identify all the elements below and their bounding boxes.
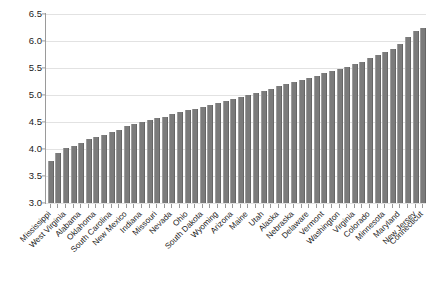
x-axis-tick-mark: [95, 204, 96, 208]
y-axis-tick-label: 5.5: [2, 63, 42, 73]
x-axis-tick-mark: [171, 204, 172, 208]
x-axis-tick-mark: [308, 204, 309, 208]
bar: [382, 52, 388, 203]
bar: [169, 114, 175, 203]
x-axis-tick-mark: [232, 204, 233, 208]
bar: [344, 67, 350, 203]
x-axis-tick-mark: [202, 204, 203, 208]
bar: [245, 95, 251, 203]
x-axis-tick-mark: [240, 204, 241, 208]
bar: [101, 135, 107, 203]
bar: [154, 118, 160, 203]
x-axis-tick-mark: [80, 204, 81, 208]
plot-area: [46, 14, 426, 203]
bar: [78, 143, 84, 203]
bar: [367, 58, 373, 203]
bar: [253, 93, 259, 203]
x-axis-tick-label: Utah: [118, 210, 265, 282]
x-axis-tick-mark: [278, 204, 279, 208]
bar: [321, 73, 327, 203]
bar: [124, 126, 130, 203]
x-axis-tick-mark: [57, 204, 58, 208]
bar: [223, 101, 229, 203]
bar: [177, 112, 183, 203]
x-axis-tick-mark: [50, 204, 51, 208]
x-axis-tick-label: Alaska: [133, 210, 280, 282]
x-axis-tick-label: Minnesota: [240, 210, 387, 282]
x-axis-tick-mark: [255, 204, 256, 208]
bar: [162, 117, 168, 203]
y-axis-tick-label: 4.5: [2, 117, 42, 127]
x-axis-tick-mark: [407, 204, 408, 208]
x-axis-tick-label: New Jersey: [270, 210, 417, 282]
bar: [420, 28, 426, 203]
x-axis-tick-label: Wyoming: [73, 210, 220, 282]
x-axis-tick-mark: [339, 204, 340, 208]
y-axis-tick-label: 4.0: [2, 144, 42, 154]
x-axis-tick-mark: [73, 204, 74, 208]
bar: [93, 137, 99, 203]
gridline: [46, 41, 426, 42]
x-axis-tick-label: Virginia: [209, 210, 356, 282]
bar: [192, 109, 198, 203]
x-axis-tick-mark: [361, 204, 362, 208]
bar: [405, 37, 411, 203]
x-axis-tick-mark: [156, 204, 157, 208]
bar: [261, 91, 267, 203]
bar: [397, 44, 403, 203]
bar: [215, 103, 221, 203]
bar: [268, 89, 274, 203]
gridline: [46, 14, 426, 15]
bar: [86, 139, 92, 203]
x-axis-tick-mark: [399, 204, 400, 208]
bar: [230, 99, 236, 203]
bar: [207, 105, 213, 203]
bar: [283, 84, 289, 203]
x-axis-tick-mark: [293, 204, 294, 208]
x-axis-tick-mark: [331, 204, 332, 208]
bar: [299, 80, 305, 203]
bar: [337, 69, 343, 203]
x-axis-tick-mark: [217, 204, 218, 208]
x-axis-tick-mark: [422, 204, 423, 208]
bar: [71, 146, 77, 203]
bar: [413, 31, 419, 203]
x-axis-tick-mark: [164, 204, 165, 208]
y-axis-tick-label: 6.0: [2, 36, 42, 46]
bar: [238, 97, 244, 203]
bar: [185, 110, 191, 203]
x-axis-tick-mark: [187, 204, 188, 208]
x-axis-tick-mark: [415, 204, 416, 208]
bar: [109, 132, 115, 203]
x-axis-tick-label: South Dakota: [57, 210, 204, 282]
x-axis-tick-mark: [209, 204, 210, 208]
x-axis-tick-mark: [316, 204, 317, 208]
bar: [291, 82, 297, 203]
bar: [116, 130, 122, 203]
x-axis-tick-mark: [88, 204, 89, 208]
x-axis-tick-label: Maine: [103, 210, 250, 282]
x-axis-tick-label: Colorado: [225, 210, 372, 282]
bar: [306, 78, 312, 203]
x-axis-tick-mark: [384, 204, 385, 208]
x-axis-tick-mark: [179, 204, 180, 208]
x-axis-tick-mark: [133, 204, 134, 208]
x-axis-tick-mark: [225, 204, 226, 208]
x-axis-tick-mark: [194, 204, 195, 208]
y-axis-tick-label: 3.5: [2, 171, 42, 181]
bar: [48, 161, 54, 203]
x-axis-tick-mark: [301, 204, 302, 208]
x-axis-tick-mark: [323, 204, 324, 208]
x-axis-tick-mark: [126, 204, 127, 208]
x-axis-tick-mark: [65, 204, 66, 208]
x-axis-tick-mark: [346, 204, 347, 208]
x-axis-tick-label: Nebraska: [149, 210, 296, 282]
x-axis-tick-mark: [247, 204, 248, 208]
bar: [390, 49, 396, 203]
y-axis-tick-label: 5.0: [2, 90, 42, 100]
x-axis-tick-mark: [111, 204, 112, 208]
bar: [329, 71, 335, 203]
x-axis-tick-label: Vermont: [179, 210, 326, 282]
x-axis-tick-label: Ohio: [42, 210, 189, 282]
x-axis-tick-label: Washington: [194, 210, 341, 282]
